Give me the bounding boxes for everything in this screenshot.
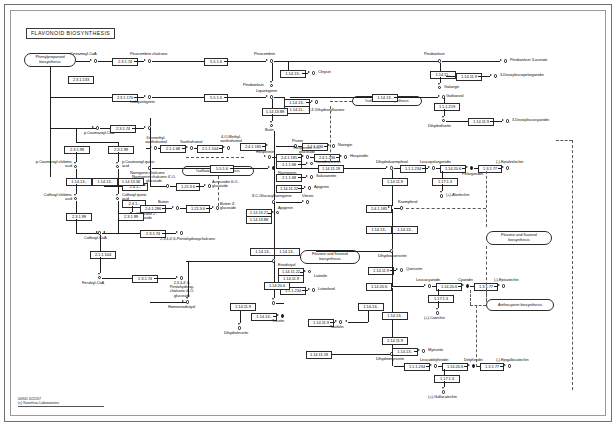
compound-node-chrysin[interactable] xyxy=(312,71,315,74)
enzyme-box[interactable]: 5.5.1.6 xyxy=(210,165,234,173)
compound-node-hesperetin-7-o-glucoside[interactable] xyxy=(306,155,309,158)
compound-node-luteolin[interactable] xyxy=(308,270,311,273)
map-link-flavone-flavonol-biosynthesis-left[interactable]: Flavone and flavonol biosynthesis xyxy=(300,250,360,264)
compound-node-hesperetin[interactable] xyxy=(268,155,271,158)
enzyme-box[interactable]: 1.14.13.- xyxy=(66,178,92,186)
compound-node-desmethylxanthohumol[interactable] xyxy=(154,146,157,149)
compound-node-pelargonidin[interactable] xyxy=(470,166,473,169)
compound-node-cinnamoyl-coa[interactable] xyxy=(94,59,97,62)
enzyme-box[interactable]: 1.17.1.3 xyxy=(432,178,458,186)
enzyme-box[interactable]: 1.21.3.6 xyxy=(186,205,210,213)
enzyme-box[interactable]: 1.21.3.6 xyxy=(176,183,200,191)
compound-node-pinobanksin[interactable] xyxy=(270,84,273,87)
compound-node-myricetin[interactable] xyxy=(422,349,425,352)
compound-node-butein-4-glucoside[interactable] xyxy=(216,206,219,209)
enzyme-box[interactable]: 1.14.11.9 xyxy=(468,118,494,126)
enzyme-box[interactable]: 1.14.13.- xyxy=(392,226,418,234)
compound-node-p-coumaroyl-shikimic-acid[interactable] xyxy=(74,165,77,168)
enzyme-box[interactable]: 1.14.13.- xyxy=(358,303,384,311)
compound-node-sakuranetin[interactable] xyxy=(310,175,313,178)
enzyme-box[interactable]: 1.14.13.- xyxy=(392,348,418,356)
enzyme-box[interactable]: 2.3.1.99 xyxy=(108,146,134,154)
enzyme-box[interactable]: 5.5.1.6 xyxy=(204,94,228,102)
compound-node-vitexin[interactable] xyxy=(306,200,309,203)
compound-node-hesperidin[interactable] xyxy=(344,155,347,158)
enzyme-box[interactable]: 2.3.1.99 xyxy=(64,146,90,154)
enzyme-box[interactable]: 2.3.1.74 xyxy=(132,275,158,283)
compound-node-epicatechin[interactable] xyxy=(502,284,505,287)
compound-node-naringin[interactable] xyxy=(332,144,335,147)
enzyme-box[interactable]: 2.3.1.99 xyxy=(118,213,144,221)
enzyme-box[interactable]: 1.14.11.9 xyxy=(382,337,408,345)
enzyme-box[interactable]: 1.14.11.9 xyxy=(382,178,408,186)
compound-node-naringenin-chalcone-glucoside[interactable] xyxy=(166,184,169,187)
compound-node-pentahydroxychalcone[interactable] xyxy=(180,231,183,234)
enzyme-box[interactable]: 1.14.11.9 xyxy=(368,267,394,275)
compound-node-4-o-methylxanthohumol[interactable] xyxy=(227,146,230,149)
enzyme-box[interactable]: 1.14.13.88 xyxy=(262,108,288,116)
compound-node-leucodelphinidin[interactable] xyxy=(434,364,437,367)
enzyme-box[interactable]: 1.14.11.19 xyxy=(318,165,344,173)
enzyme-box[interactable]: 1.14.20.6 xyxy=(366,283,392,291)
enzyme-box[interactable]: 1.14.20.6 xyxy=(264,282,290,290)
enzyme-box[interactable]: 1.14.13.- xyxy=(274,248,300,256)
enzyme-box[interactable]: 1.14.11.- xyxy=(430,71,456,79)
compound-node-cyanidin[interactable] xyxy=(466,284,469,287)
map-link-phenylpropanoid-biosynthesis[interactable]: Phenylpropanoid biosynthesis xyxy=(24,53,76,67)
enzyme-box[interactable]: 1.17.1.3 xyxy=(428,295,454,303)
enzyme-box[interactable]: 1.14.13.- xyxy=(372,94,398,102)
compound-node-leucopelargonidin[interactable] xyxy=(432,166,435,169)
compound-node-galangin[interactable] xyxy=(438,86,441,89)
enzyme-box[interactable]: 2.1.1.68 xyxy=(276,174,302,182)
compound-node-kaempferol[interactable] xyxy=(400,206,403,209)
enzyme-box[interactable]: 1.14.13.36 xyxy=(118,178,144,186)
compound-node-dihydrofisetin[interactable] xyxy=(442,119,445,122)
enzyme-box[interactable]: 2.3.1.99 xyxy=(66,213,92,221)
enzyme-box[interactable]: 1.3.1.77 xyxy=(478,165,502,173)
compound-node-caffeoyl-quinic-acid[interactable] xyxy=(116,197,119,200)
compound-node-epiafzelechin[interactable] xyxy=(506,166,509,169)
compound-node-leucocyanidin[interactable] xyxy=(428,284,431,287)
compound-node-tricetin-trunk[interactable] xyxy=(272,301,275,304)
enzyme-box[interactable]: 2.1.1.104 xyxy=(90,251,116,259)
compound-node-quercetin[interactable] xyxy=(400,268,403,271)
compound-node-p-coumaroyl-quinic-acid[interactable] xyxy=(116,165,119,168)
compound-node-caffeoyl-shikimic-acid[interactable] xyxy=(74,197,77,200)
compound-node-apigenin[interactable] xyxy=(308,186,311,189)
enzyme-box[interactable]: 1.14.11.22 xyxy=(276,185,302,193)
compound-node-pinocembrin-chalcone[interactable] xyxy=(148,59,151,62)
compound-node-butein[interactable] xyxy=(176,206,179,209)
enzyme-box[interactable]: 1.14.13.- xyxy=(280,70,306,78)
enzyme-box[interactable]: 1.14.13.- xyxy=(92,178,118,186)
enzyme-box[interactable]: 1.1.1.219 xyxy=(434,103,460,111)
enzyme-box[interactable]: 1.14.13.- xyxy=(382,312,408,320)
compound-node-3-deoxyleucopelargonidin[interactable] xyxy=(494,74,497,77)
enzyme-box[interactable]: 1.1.1.234 xyxy=(400,165,426,173)
compound-node-luteoforol[interactable] xyxy=(312,288,315,291)
compound-node-delphinidin[interactable] xyxy=(472,364,475,367)
enzyme-box[interactable]: 1.14.11.9 xyxy=(230,303,256,311)
enzyme-box[interactable]: 1.14.11.19 xyxy=(306,351,332,359)
compound-node-7-4-dihydroxyflavone[interactable] xyxy=(315,100,318,103)
enzyme-box[interactable]: 2.1.1.68 xyxy=(160,145,186,153)
map-link-flavone-flavonol-biosynthesis-right[interactable]: Flavone and flavonol biosynthesis xyxy=(486,231,552,245)
enzyme-box[interactable]: 2.3.1.74 xyxy=(110,125,136,133)
compound-node-xanthohumol[interactable] xyxy=(190,146,193,149)
enzyme-box[interactable]: 1.17.1.3 xyxy=(434,375,460,383)
enzyme-box[interactable]: 1.3.1.77 xyxy=(480,363,504,371)
enzyme-box[interactable]: 2.1.1.104 xyxy=(197,145,223,153)
enzyme-box[interactable]: 2.3.1.74 xyxy=(112,58,138,66)
enzyme-box[interactable]: 1.14.20.6 xyxy=(436,283,462,291)
enzyme-box[interactable]: 1.14.11.9 xyxy=(456,73,482,81)
compound-node-feruloyl-coa[interactable] xyxy=(98,276,101,279)
enzyme-box[interactable]: 1.14.20.6 xyxy=(442,363,468,371)
compound-node-isosakuranetin[interactable] xyxy=(310,162,313,165)
enzyme-box[interactable]: 2.4.1.286 xyxy=(140,205,166,213)
enzyme-box[interactable]: 1.14.13.- xyxy=(250,248,276,256)
enzyme-box[interactable]: 2.3.1.133 xyxy=(68,76,94,84)
compound-node-epigallocatechin[interactable] xyxy=(508,364,511,367)
enzyme-box[interactable]: 5.5.1.6 xyxy=(204,58,228,66)
map-link-anthocyanin-biosynthesis[interactable]: Anthocyanin biosynthesis xyxy=(486,299,554,311)
compound-node-afzelechin[interactable] xyxy=(440,194,443,197)
enzyme-box[interactable]: 1.14.13.88 xyxy=(246,216,272,224)
